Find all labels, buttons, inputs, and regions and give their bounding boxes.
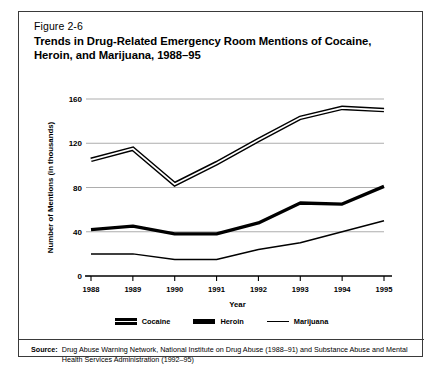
legend-label: Cocaine: [142, 317, 171, 326]
y-tick-label: 120: [69, 139, 83, 148]
x-tick-label: 1989: [124, 285, 141, 294]
source-text: Drug Abuse Warning Network, National Ins…: [62, 345, 416, 364]
chart-legend: CocaineHeroinMarijuana: [19, 317, 424, 326]
x-tick-label: 1993: [292, 285, 309, 294]
source-note: Source: Drug Abuse Warning Network, Nati…: [31, 345, 416, 364]
legend-swatch-cocaine-icon: [115, 318, 137, 325]
legend-item-cocaine: Cocaine: [115, 317, 171, 326]
legend-item-marijuana: Marijuana: [267, 317, 329, 326]
x-tick-label: 1988: [83, 285, 100, 294]
source-divider: [19, 339, 424, 340]
figure-number: Figure 2-6: [34, 20, 83, 32]
series-line-heroin: [91, 186, 384, 234]
y-tick-label: 0: [78, 272, 83, 281]
x-axis-title: Year: [229, 300, 245, 309]
legend-swatch-heroin-icon: [193, 319, 215, 324]
legend-label: Marijuana: [294, 317, 329, 326]
x-tick-label: 1995: [376, 285, 394, 294]
x-axis-tick-marks: [91, 276, 384, 281]
y-tick-label: 40: [73, 228, 82, 237]
chart-plot-area: 04080120160 1988198919901991199219931994…: [19, 74, 424, 336]
y-axis-title: Number of Mentions (in thousands): [46, 121, 55, 253]
line-chart: 04080120160 1988198919901991199219931994…: [19, 74, 424, 336]
legend-swatch-marijuana-icon: [267, 321, 289, 323]
figure-frame: Figure 2-6 Trends in Drug-Related Emerge…: [18, 11, 423, 357]
x-tick-label: 1994: [334, 285, 352, 294]
y-tick-label: 160: [69, 95, 83, 104]
x-tick-label: 1991: [208, 285, 226, 294]
series-line-cocaine-inner: [91, 108, 384, 184]
x-tick-label: 1990: [166, 285, 183, 294]
legend-item-heroin: Heroin: [193, 317, 243, 326]
y-tick-label: 80: [73, 184, 82, 193]
figure-title: Trends in Drug-Related Emergency Room Me…: [34, 34, 409, 62]
data-series-layer: [91, 108, 384, 260]
legend-label: Heroin: [220, 317, 243, 326]
x-tick-label: 1992: [250, 285, 267, 294]
source-label: Source:: [31, 345, 58, 364]
y-axis-tick-labels: 04080120160: [69, 95, 83, 281]
gridlines: [86, 99, 384, 276]
x-axis-tick-labels: 19881989199019911992199319941995: [83, 285, 394, 294]
series-line-cocaine: [91, 108, 384, 184]
